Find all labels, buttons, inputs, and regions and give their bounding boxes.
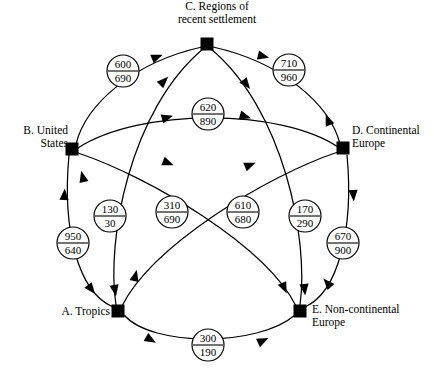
arrowhead-d-to-e	[348, 190, 358, 202]
edge-a-c	[114, 49, 203, 305]
badge-a-e-bottom: 190	[200, 346, 217, 358]
node-square-d[interactable]	[337, 142, 349, 154]
badge-a-c-top: 130	[102, 203, 119, 215]
badge-c-d-top: 710	[281, 57, 298, 69]
badge-b-c[interactable]: 600 690	[107, 55, 139, 87]
badge-a-c[interactable]: 130 30	[94, 200, 126, 232]
arrowhead-b-to-d	[161, 111, 175, 123]
node-label-a: A. Tropics	[20, 305, 110, 318]
badge-a-c-bottom: 30	[105, 217, 117, 229]
badge-b-e-bottom: 680	[235, 213, 252, 225]
node-label-d: D. Continental Europe	[352, 124, 432, 150]
badge-d-e[interactable]: 670 900	[327, 227, 359, 259]
badge-a-e-top: 300	[200, 332, 217, 344]
diagram-canvas: 600 690 710 960 620 890 950 640	[0, 0, 434, 376]
badge-c-e[interactable]: 170 290	[289, 200, 321, 232]
arrowhead-c-to-d	[257, 51, 270, 63]
badge-b-e[interactable]: 610 680	[227, 196, 259, 228]
badge-a-b-bottom: 640	[65, 244, 82, 256]
arrowhead-c-to-b	[77, 170, 89, 183]
badge-d-e-top: 670	[335, 230, 352, 242]
arrowhead-e-to-a	[256, 334, 270, 347]
arrowhead-a-to-d	[243, 158, 257, 171]
badge-b-d-bottom: 890	[200, 115, 217, 127]
node-label-b: B. United States	[6, 124, 68, 150]
badge-d-e-bottom: 900	[335, 244, 352, 256]
badge-b-c-bottom: 690	[115, 72, 132, 84]
badge-c-d[interactable]: 710 960	[273, 54, 305, 86]
node-square-c[interactable]	[201, 38, 213, 50]
node-layer	[66, 38, 349, 317]
badge-a-b[interactable]: 950 640	[57, 227, 89, 259]
node-label-e: E. Non-continental Europe	[312, 303, 432, 329]
arrowhead-b-to-e	[161, 157, 175, 170]
arrowhead-d-to-b	[239, 111, 253, 123]
badge-a-b-top: 950	[65, 230, 82, 242]
arrowhead-a-to-e	[144, 333, 159, 347]
node-square-a[interactable]	[112, 305, 124, 317]
badge-c-d-bottom: 960	[281, 71, 298, 83]
badge-a-d-bottom: 690	[164, 213, 181, 225]
badge-a-e[interactable]: 300 190	[192, 329, 224, 361]
badge-c-e-bottom: 290	[297, 217, 314, 229]
badge-b-d-top: 620	[200, 101, 217, 113]
badge-a-d-top: 310	[164, 199, 181, 211]
edge-c-e	[211, 49, 302, 305]
badge-b-c-top: 600	[115, 58, 132, 70]
badge-b-e-top: 610	[235, 199, 252, 211]
node-square-e[interactable]	[294, 305, 306, 317]
edge-b-c	[76, 47, 202, 144]
badge-b-d[interactable]: 620 890	[192, 98, 224, 130]
badge-a-d[interactable]: 310 690	[156, 196, 188, 228]
edge-layer	[67, 47, 348, 339]
badge-c-e-top: 170	[297, 203, 314, 215]
node-label-c: C. Regions of recent settlement	[0, 0, 434, 26]
